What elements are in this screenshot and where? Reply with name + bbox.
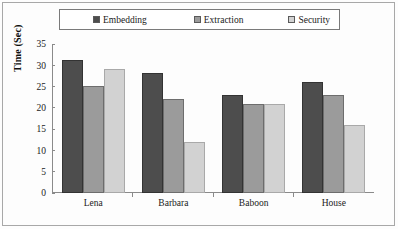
bar bbox=[222, 95, 243, 193]
bar bbox=[83, 86, 104, 193]
y-tick-label: 0 bbox=[41, 189, 52, 199]
x-tick-mark bbox=[213, 193, 214, 197]
y-axis-title: Time (Sec) bbox=[12, 24, 23, 72]
bar bbox=[62, 60, 83, 193]
bar-group bbox=[133, 44, 213, 193]
y-tick-label: 20 bbox=[37, 104, 53, 114]
chart-legend: Embedding Extraction Security bbox=[59, 9, 340, 30]
legend-label-extraction: Extraction bbox=[204, 15, 244, 25]
legend-item-security: Security bbox=[288, 15, 330, 25]
legend-swatch-icon-embedding bbox=[93, 16, 100, 23]
bar bbox=[163, 99, 184, 193]
legend-swatch-icon-extraction bbox=[194, 16, 201, 23]
x-axis-label: Baboon bbox=[214, 198, 294, 208]
legend-label-embedding: Embedding bbox=[103, 15, 147, 25]
legend-item-embedding: Embedding bbox=[93, 15, 147, 25]
bar bbox=[184, 142, 205, 193]
plot-area: 05101520253035 bbox=[52, 44, 374, 193]
bar-chart: Embedding Extraction Security Time (Sec)… bbox=[0, 0, 398, 229]
y-tick-label: 25 bbox=[37, 82, 53, 92]
legend-swatch-icon-security bbox=[288, 16, 295, 23]
bar-groups bbox=[53, 44, 374, 193]
bar-group bbox=[214, 44, 294, 193]
y-tick-label: 15 bbox=[37, 125, 53, 135]
x-axis-label: Lena bbox=[53, 198, 133, 208]
y-tick-label: 35 bbox=[37, 40, 53, 50]
bar bbox=[323, 95, 344, 193]
y-tick-label: 5 bbox=[41, 167, 52, 177]
x-axis-label: Barbara bbox=[133, 198, 213, 208]
bar bbox=[302, 82, 323, 193]
x-tick-mark bbox=[293, 193, 294, 197]
bar-group bbox=[53, 44, 133, 193]
x-axis-label: House bbox=[294, 198, 374, 208]
bar bbox=[243, 104, 264, 193]
bar bbox=[264, 104, 285, 193]
bar bbox=[104, 69, 125, 193]
bar-group bbox=[294, 44, 374, 193]
legend-item-extraction: Extraction bbox=[194, 15, 244, 25]
x-axis-labels: LenaBarbaraBaboonHouse bbox=[53, 198, 374, 208]
bar bbox=[142, 73, 163, 193]
legend-label-security: Security bbox=[298, 15, 330, 25]
x-tick-mark bbox=[132, 193, 133, 197]
bar bbox=[344, 125, 365, 193]
y-tick-label: 30 bbox=[37, 61, 53, 71]
y-tick-label: 10 bbox=[37, 146, 53, 156]
